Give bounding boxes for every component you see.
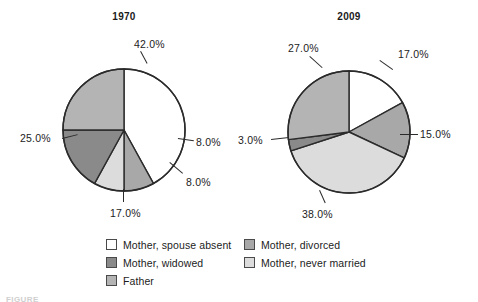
leader-2009-spouse-absent bbox=[379, 60, 393, 70]
figure-root: 1970 200942.0%8.0%8.0%17.0%25.0%17.0%15.… bbox=[0, 0, 478, 302]
leader-1970-spouse-absent bbox=[140, 51, 147, 64]
leader-1970-widowed bbox=[123, 189, 124, 202]
chart-title-1970: 1970 bbox=[112, 11, 135, 22]
label-1970-father: 25.0% bbox=[20, 132, 51, 144]
label-2009-divorced: 15.0% bbox=[420, 128, 451, 140]
label-1970-divorced: 8.0% bbox=[196, 136, 221, 148]
label-1970-spouse-absent: 42.0% bbox=[134, 38, 165, 50]
leader-2009-father bbox=[309, 56, 322, 68]
label-2009-spouse-absent: 17.0% bbox=[398, 48, 429, 60]
legend-swatch-icon bbox=[244, 257, 255, 268]
label-1970-never-married: 8.0% bbox=[186, 176, 211, 188]
legend-swatch-icon bbox=[106, 239, 117, 250]
legend-label: Mother, never married bbox=[261, 257, 366, 269]
legend: Mother, spouse absentMother, widowedFath… bbox=[106, 236, 366, 290]
chart-title-2009: 2009 bbox=[337, 11, 360, 22]
slice-2009-father bbox=[288, 71, 349, 140]
pie-chart-2009 bbox=[287, 70, 411, 194]
pie-2009-svg bbox=[287, 70, 411, 194]
legend-label: Mother, divorced bbox=[261, 239, 340, 251]
slice-1970-father bbox=[63, 69, 124, 130]
legend-item[interactable]: Father bbox=[106, 272, 231, 289]
pie-chart-1970 bbox=[62, 68, 186, 192]
legend-item[interactable]: Mother, spouse absent bbox=[106, 236, 231, 253]
legend-column-left: Mother, spouse absentMother, widowedFath… bbox=[106, 236, 231, 290]
legend-item[interactable]: Mother, widowed bbox=[106, 254, 231, 271]
legend-label: Father bbox=[123, 275, 154, 287]
label-2009-widowed: 3.0% bbox=[238, 134, 263, 146]
legend-label: Mother, spouse absent bbox=[123, 239, 231, 251]
legend-item[interactable]: Mother, divorced bbox=[244, 236, 366, 253]
pie-1970-svg bbox=[62, 68, 186, 192]
legend-swatch-icon bbox=[106, 275, 117, 286]
label-1970-widowed: 17.0% bbox=[110, 207, 141, 219]
label-2009-father: 27.0% bbox=[288, 42, 319, 54]
legend-item[interactable]: Mother, never married bbox=[244, 254, 366, 271]
legend-label: Mother, widowed bbox=[123, 257, 203, 269]
legend-swatch-icon bbox=[244, 239, 255, 250]
figure-caption: FIGURE bbox=[6, 295, 39, 302]
legend-swatch-icon bbox=[106, 257, 117, 268]
label-2009-never-married: 38.0% bbox=[302, 208, 333, 220]
legend-column-right: Mother, divorcedMother, never married bbox=[244, 236, 366, 272]
leader-2009-divorced bbox=[400, 134, 418, 135]
